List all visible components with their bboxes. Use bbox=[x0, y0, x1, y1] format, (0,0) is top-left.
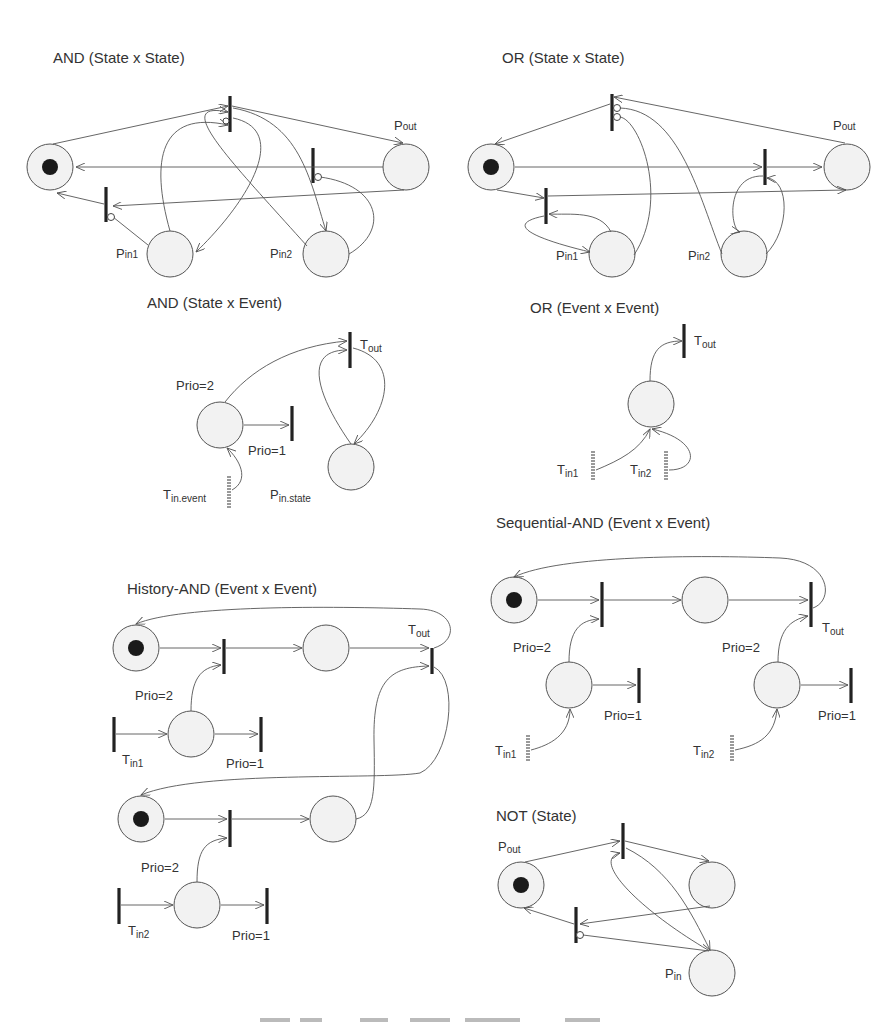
token-icon bbox=[133, 811, 149, 827]
label-prio2-a: Prio=2 bbox=[135, 688, 173, 703]
label-p-out: Pout bbox=[394, 118, 417, 133]
panel-title: NOT (State) bbox=[496, 807, 577, 824]
token-icon bbox=[513, 877, 529, 893]
panel-title: AND (State x Event) bbox=[147, 294, 282, 311]
place-result bbox=[689, 862, 735, 908]
inhibitor-icon bbox=[577, 932, 584, 939]
token-icon bbox=[483, 159, 499, 175]
panel-sequential-and: Sequential-AND (Event x Event) Tout Prio… bbox=[491, 514, 856, 762]
inhibitor-icon bbox=[108, 214, 115, 221]
panel-and-state-event: AND (State x Event) Tout Prio=2 Prio=1 T… bbox=[147, 294, 385, 509]
petri-net-figure: AND (State x State) Pout Pin1 Pin2 OR (S… bbox=[0, 0, 895, 1022]
panel-and-state-state: AND (State x State) Pout Pin1 Pin2 bbox=[27, 49, 429, 277]
place-p-out bbox=[383, 144, 429, 190]
panel-or-state-state: OR (State x State) Pout Pin1 Pin2 bbox=[468, 49, 870, 277]
label-p-in1: Pin1 bbox=[116, 246, 138, 261]
panel-history-and: History-AND (Event x Event) Tout Prio=2 … bbox=[113, 580, 450, 943]
token-icon bbox=[128, 640, 144, 656]
label-t-in2: Tin2 bbox=[630, 462, 652, 479]
place-in1-buffer bbox=[546, 662, 592, 708]
label-p-out: Pout bbox=[498, 839, 521, 855]
label-prio1-a: Prio=1 bbox=[226, 756, 264, 771]
label-prio2-b: Prio=2 bbox=[722, 640, 760, 655]
label-prio1-b: Prio=1 bbox=[232, 928, 270, 943]
place-p-in bbox=[689, 950, 735, 996]
place-in2-buffer bbox=[754, 662, 800, 708]
inhibitor-icon bbox=[223, 118, 229, 124]
token-icon bbox=[42, 159, 58, 175]
inhibitor-icon bbox=[614, 105, 621, 112]
label-p-in-state: Pin.state bbox=[270, 487, 311, 504]
place-event-buffer bbox=[197, 402, 243, 448]
label-t-out: Tout bbox=[822, 620, 844, 637]
place-p-in2 bbox=[721, 231, 767, 277]
place-p-in2 bbox=[303, 231, 349, 277]
label-p-out: Pout bbox=[833, 118, 856, 133]
place-p-in1 bbox=[147, 231, 193, 277]
label-t-out: Tout bbox=[694, 333, 716, 350]
label-prio1-a: Prio=1 bbox=[604, 708, 642, 723]
place-p-out bbox=[824, 144, 870, 190]
panel-title: History-AND (Event x Event) bbox=[127, 580, 317, 597]
label-prio2-b: Prio=2 bbox=[141, 860, 179, 875]
label-prio1-b: Prio=1 bbox=[818, 708, 856, 723]
place-in2-buffer bbox=[174, 882, 220, 928]
panel-title: OR (State x State) bbox=[502, 49, 625, 66]
label-t-in1: Tin1 bbox=[122, 752, 144, 769]
label-prio2: Prio=2 bbox=[176, 378, 214, 393]
inhibitor-icon bbox=[614, 114, 621, 121]
place-p-in-state bbox=[328, 444, 374, 490]
token-icon bbox=[506, 592, 522, 608]
panel-title: OR (Event x Event) bbox=[530, 299, 659, 316]
label-t-in2: Tin2 bbox=[128, 923, 150, 940]
label-prio1: Prio=1 bbox=[248, 443, 286, 458]
panel-not-state: NOT (State) Pout Pin bbox=[496, 807, 735, 996]
place-merge bbox=[628, 381, 674, 427]
panel-or-event-event: OR (Event x Event) Tout Tin1 Tin2 bbox=[530, 299, 716, 480]
label-t-in2: Tin2 bbox=[693, 743, 715, 760]
place-middle bbox=[682, 577, 728, 623]
label-t-in1: Tin1 bbox=[557, 462, 579, 479]
label-p-in2: Pin2 bbox=[688, 248, 710, 263]
place-p-in1 bbox=[589, 231, 635, 277]
label-prio2-a: Prio=2 bbox=[513, 640, 551, 655]
label-p-in: Pin bbox=[665, 966, 681, 982]
place-in1-buffer bbox=[168, 711, 214, 757]
panel-title: AND (State x State) bbox=[53, 49, 185, 66]
inhibitor-icon bbox=[315, 174, 322, 181]
place-middle-2 bbox=[310, 796, 356, 842]
label-t-in1: Tin1 bbox=[495, 743, 517, 760]
panel-title: Sequential-AND (Event x Event) bbox=[496, 514, 710, 531]
label-p-in1: Pin1 bbox=[556, 248, 578, 263]
label-t-in-event: Tin.event bbox=[163, 487, 206, 504]
label-t-out: Tout bbox=[360, 337, 382, 354]
figure-caption-clipped bbox=[260, 1016, 640, 1022]
label-t-out: Tout bbox=[408, 622, 430, 639]
label-p-in2: Pin2 bbox=[270, 246, 292, 261]
place-middle-1 bbox=[303, 625, 349, 671]
